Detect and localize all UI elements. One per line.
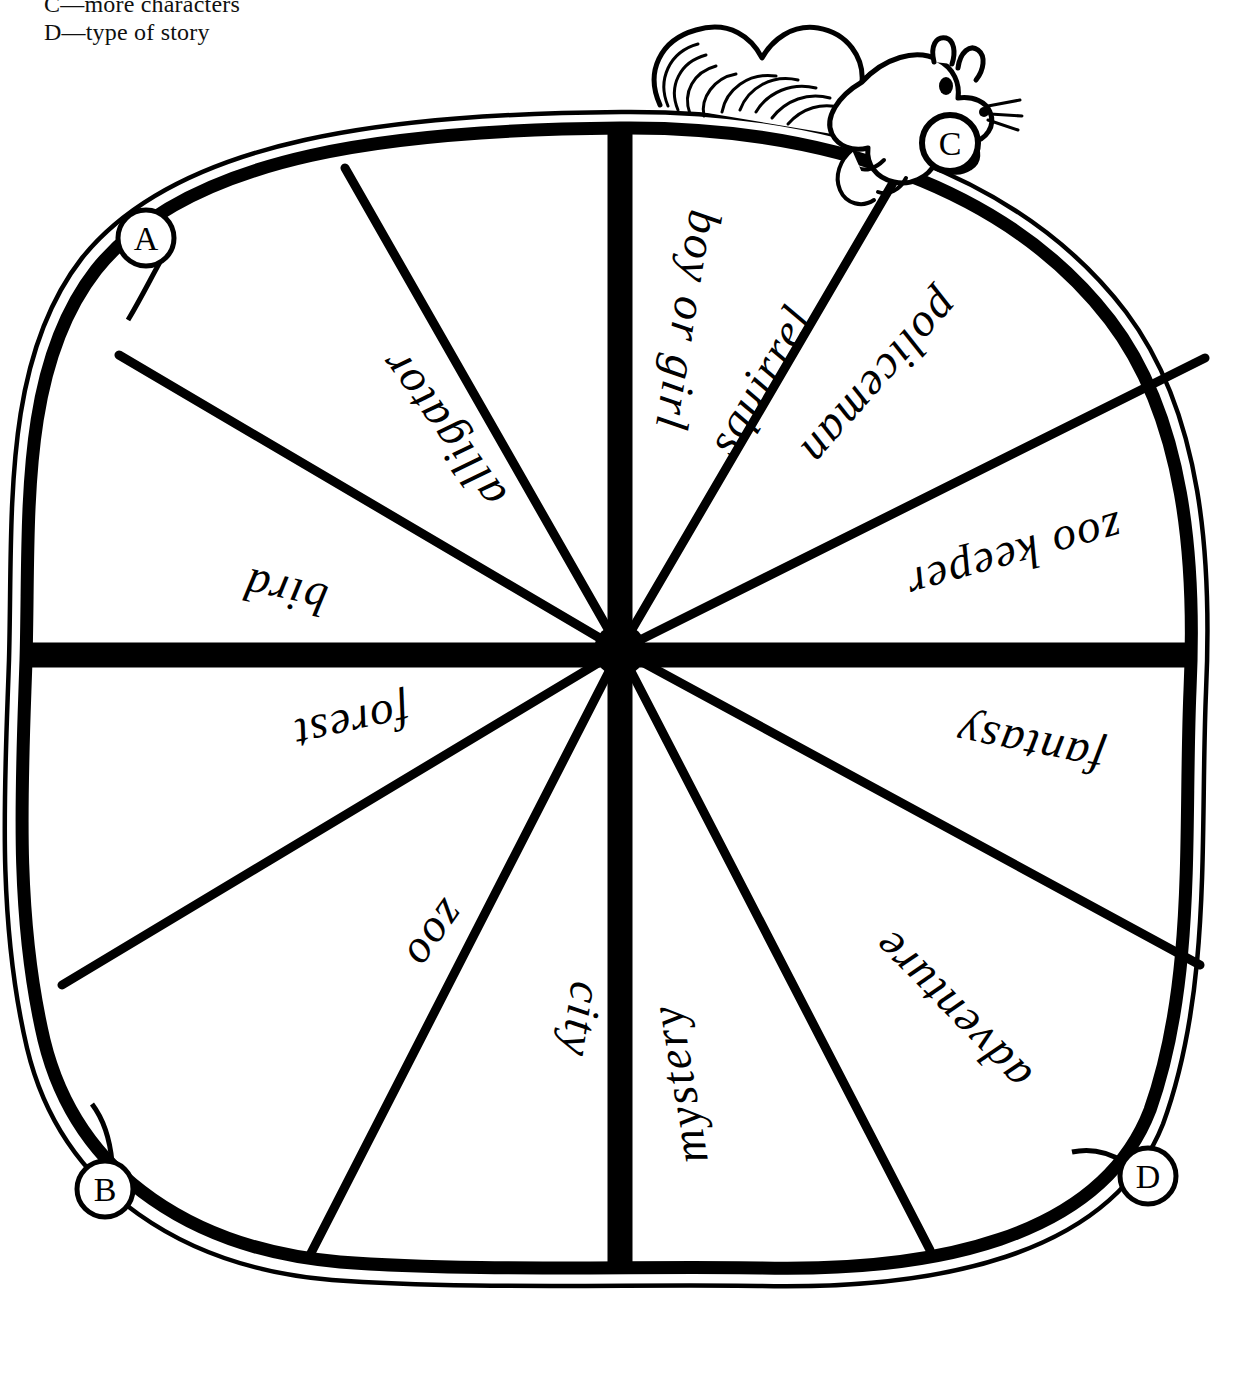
squirrel-ear-left: [933, 38, 954, 64]
wheel-quadrant-dividers: [22, 128, 1190, 1266]
marker-c[interactable]: C: [922, 115, 978, 171]
wheel-outer-rim: [5, 112, 1208, 1286]
wheel-svg[interactable]: squirrel alligator bird forest zoo city …: [0, 0, 1247, 1392]
segment-label-adventure: adventure: [861, 920, 1041, 1102]
marker-d-leader: [1072, 1150, 1124, 1162]
marker-b[interactable]: B: [77, 1104, 133, 1217]
segment-label-forest: forest: [289, 686, 415, 762]
segment-label-zoo: zoo: [395, 891, 479, 980]
squirrel-ear-right: [958, 48, 983, 80]
marker-c-letter: C: [939, 125, 962, 162]
squirrel-nose: [979, 107, 989, 117]
spoke-a1: [345, 168, 620, 650]
marker-a-letter: A: [134, 220, 159, 257]
marker-d-letter: D: [1136, 1158, 1161, 1195]
spoke-a2: [119, 355, 620, 650]
wheel-thin-spokes: [62, 128, 1205, 1255]
segment-label-mystery: mystery: [639, 1001, 717, 1168]
spinner-wheel[interactable]: squirrel alligator bird forest zoo city …: [0, 0, 1247, 1392]
wheel-hub: [594, 624, 646, 676]
marker-b-letter: B: [94, 1171, 117, 1208]
marker-a[interactable]: A: [118, 210, 174, 320]
segment-label-bird: bird: [238, 558, 332, 627]
segment-label-fantasy: fantasy: [951, 706, 1108, 786]
squirrel-eye: [939, 77, 953, 95]
segment-label-city: city: [551, 979, 613, 1062]
rim-outer-stroke: [5, 112, 1208, 1286]
marker-a-leader: [128, 262, 160, 320]
spoke-d2: [620, 650, 1200, 965]
segment-label-zoo-keeper: zoo keeper: [900, 502, 1129, 612]
rim-inner-stroke: [22, 128, 1191, 1268]
